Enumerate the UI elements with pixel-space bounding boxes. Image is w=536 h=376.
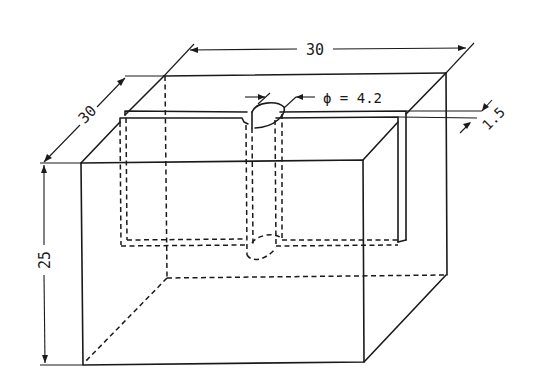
dimension-width-label: 30: [306, 41, 324, 59]
arrow-icon: [458, 45, 466, 51]
dimension-hole-diameter: ϕ = 4.2: [245, 90, 382, 108]
arrow-icon: [296, 94, 303, 100]
block-solid-edges: [81, 73, 447, 365]
dimension-height: 25: [36, 165, 83, 365]
arrow-icon: [190, 47, 198, 53]
block-hidden-edges: [84, 76, 446, 363]
drawing-canvas: 30 30 25 ϕ = 4.2 1.5: [0, 0, 536, 376]
arrow-icon: [41, 165, 47, 173]
arrow-icon: [463, 122, 471, 129]
arrow-icon: [42, 355, 48, 363]
hole-diameter-label: ϕ = 4.2: [323, 90, 382, 106]
dimension-depth: 30: [40, 76, 164, 163]
dimension-depth-label: 30: [75, 102, 101, 128]
dimension-height-label: 25: [36, 251, 54, 269]
dimension-width: 30: [164, 41, 474, 76]
